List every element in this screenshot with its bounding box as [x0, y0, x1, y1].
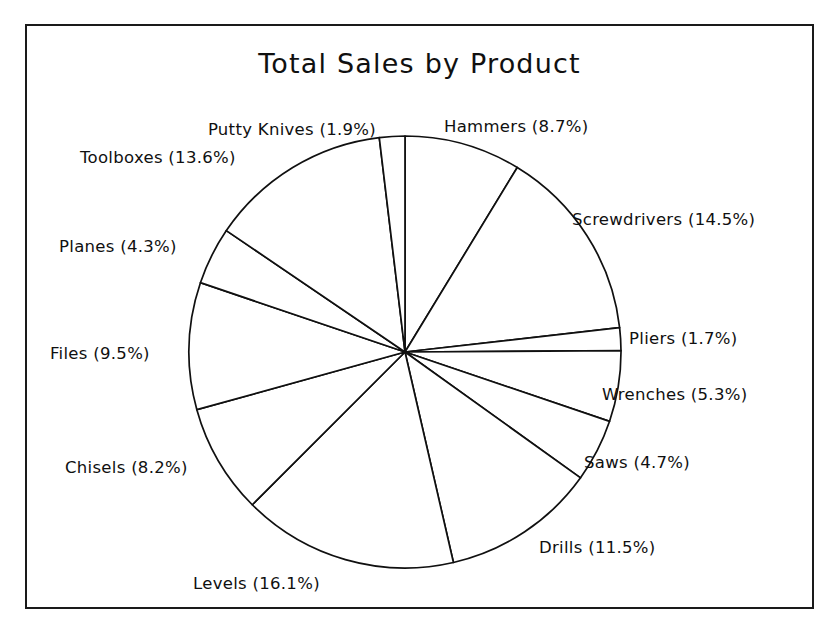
pie-label-chisels: Chisels (8.2%) [65, 460, 188, 477]
pie-label-levels: Levels (16.1%) [193, 576, 320, 593]
pie-label-saws: Saws (4.7%) [584, 455, 690, 472]
pie-label-planes: Planes (4.3%) [59, 239, 177, 256]
pie-slice-group [189, 136, 621, 568]
pie-label-files: Files (9.5%) [50, 346, 150, 363]
chart-frame: Total Sales by Product Putty Knives (1.9… [25, 24, 814, 609]
pie-label-screwdrivers: Screwdrivers (14.5%) [572, 212, 755, 229]
pie-label-hammers: Hammers (8.7%) [444, 119, 588, 136]
pie-label-pliers: Pliers (1.7%) [629, 331, 738, 348]
pie-chart[interactable] [27, 26, 816, 611]
pie-label-wrenches: Wrenches (5.3%) [602, 387, 747, 404]
pie-label-drills: Drills (11.5%) [539, 540, 656, 557]
pie-label-toolboxes: Toolboxes (13.6%) [80, 150, 236, 167]
pie-label-putty-knives: Putty Knives (1.9%) [142, 122, 442, 139]
